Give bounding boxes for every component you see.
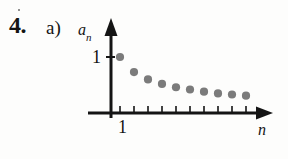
sequence-plot — [0, 0, 288, 159]
figure-container: 4. a) an n 1 1 — [0, 0, 288, 159]
data-point — [228, 90, 236, 98]
data-point — [144, 75, 152, 83]
data-point-group — [116, 53, 250, 100]
data-point — [116, 53, 124, 61]
data-point — [214, 89, 222, 97]
data-point — [158, 80, 166, 88]
data-point — [130, 68, 138, 76]
data-point — [200, 88, 208, 96]
data-point — [186, 85, 194, 93]
x-axis-arrowhead — [256, 107, 273, 120]
data-point — [172, 83, 180, 91]
data-point — [242, 92, 250, 100]
y-axis-arrowhead — [105, 18, 118, 36]
